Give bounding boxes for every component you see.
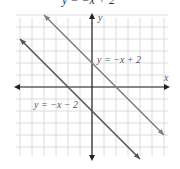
- coordinate-plane: [0, 0, 180, 169]
- line-label-minus-2: y = −x − 2: [34, 99, 78, 110]
- y-axis-label: y: [98, 12, 102, 23]
- axes: [14, 13, 170, 161]
- x-axis-label: x: [164, 72, 168, 83]
- line-label-plus-2: y = −x + 2: [97, 54, 141, 65]
